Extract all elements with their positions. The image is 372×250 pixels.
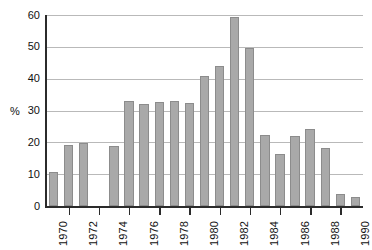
x-tick-label-1986: 1986 [300, 221, 311, 246]
x-tick-label-1988: 1988 [330, 221, 341, 246]
y-tick-50: 50 [20, 41, 40, 52]
bar-1974 [109, 146, 118, 207]
x-tick-label-1978: 1978 [179, 221, 190, 246]
bar-1977 [155, 102, 164, 207]
bar-1970 [49, 172, 58, 206]
x-axis-tick-labels: 1970197219741976197819801982198419861988… [45, 214, 363, 250]
bar-1983 [245, 48, 254, 207]
bar-1975 [124, 101, 133, 207]
x-tick-label-1990: 1990 [360, 221, 371, 246]
bar-chart: % 0102030405060 197019721974197619781980… [0, 0, 372, 250]
y-axis-tick-labels: 0102030405060 [18, 0, 40, 220]
bar-1982 [230, 17, 239, 206]
bar-1984 [260, 135, 269, 206]
bar-1986 [290, 136, 299, 207]
x-tick-label-1972: 1972 [88, 221, 99, 246]
y-tick-20: 20 [20, 137, 40, 148]
bar-1989 [336, 194, 345, 206]
x-tick-label-1984: 1984 [269, 221, 280, 246]
bar-1988 [321, 148, 330, 206]
bar-1979 [185, 103, 194, 207]
x-tick-label-1980: 1980 [209, 221, 220, 246]
y-tick-0: 0 [20, 201, 40, 212]
bar-1987 [305, 129, 314, 206]
bars-group [46, 15, 363, 206]
y-tick-40: 40 [20, 73, 40, 84]
y-tick-30: 30 [20, 105, 40, 116]
bar-1976 [139, 104, 148, 206]
x-tick-label-1982: 1982 [239, 221, 250, 246]
plot-area [45, 15, 363, 208]
bar-1990 [351, 197, 360, 207]
x-tick-label-1970: 1970 [58, 221, 69, 246]
x-tick-label-1974: 1974 [118, 221, 129, 246]
bar-1981 [215, 66, 224, 206]
bar-1971 [64, 145, 73, 207]
y-tick-10: 10 [20, 169, 40, 180]
bar-1985 [275, 154, 284, 207]
bar-1978 [170, 101, 179, 206]
y-tick-60: 60 [20, 10, 40, 21]
bar-1972 [79, 143, 88, 206]
x-tick-label-1976: 1976 [149, 221, 160, 246]
bar-1980 [200, 76, 209, 207]
